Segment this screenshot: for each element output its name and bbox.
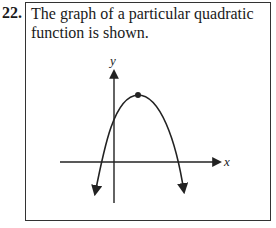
- vertex-point: [135, 92, 141, 98]
- quadratic-graph: y x: [0, 0, 276, 228]
- x-axis-label: x: [223, 154, 230, 169]
- y-axis-label: y: [108, 53, 116, 68]
- parabola-curve: [95, 95, 184, 194]
